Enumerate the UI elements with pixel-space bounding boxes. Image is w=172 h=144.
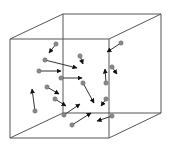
particle-dot bbox=[33, 109, 37, 113]
particle bbox=[78, 54, 83, 64]
particle-dot bbox=[104, 81, 108, 85]
particle-dot bbox=[110, 65, 114, 69]
particle-dot bbox=[43, 58, 47, 62]
particle bbox=[97, 114, 114, 121]
particle-dot bbox=[119, 41, 123, 45]
particle-dot bbox=[78, 54, 82, 58]
particle-dot bbox=[110, 114, 114, 118]
particle bbox=[104, 69, 108, 85]
particle-dot bbox=[81, 81, 85, 85]
gas-particles-cube-diagram bbox=[0, 0, 172, 144]
velocity-arrow-icon bbox=[72, 113, 91, 125]
cube-depth-edge bbox=[10, 14, 63, 39]
cube-depth-edge bbox=[109, 113, 161, 138]
particle-dot bbox=[62, 113, 66, 117]
particle bbox=[53, 97, 66, 106]
particle-dot bbox=[54, 42, 58, 46]
particle bbox=[70, 113, 91, 127]
particle bbox=[62, 104, 80, 117]
particle-dot bbox=[70, 123, 74, 127]
particle-dot bbox=[104, 97, 108, 101]
cube-depth-edge bbox=[10, 113, 63, 138]
particle bbox=[81, 81, 94, 103]
particle bbox=[32, 89, 37, 113]
particle bbox=[45, 85, 59, 94]
particle bbox=[101, 97, 108, 106]
cube-wireframe bbox=[10, 14, 161, 138]
cube-depth-edge bbox=[109, 14, 161, 39]
particle bbox=[49, 42, 58, 53]
particle-dot bbox=[59, 76, 63, 80]
particle bbox=[59, 76, 82, 80]
particle bbox=[110, 65, 117, 74]
particle bbox=[37, 69, 61, 73]
particle-dot bbox=[45, 85, 49, 89]
particles-group bbox=[32, 41, 123, 127]
particle bbox=[43, 58, 77, 68]
particle-dot bbox=[53, 97, 57, 101]
velocity-arrow-icon bbox=[32, 89, 35, 111]
velocity-arrow-icon bbox=[83, 83, 94, 103]
velocity-arrow-icon bbox=[45, 60, 77, 68]
particle-dot bbox=[37, 69, 41, 73]
